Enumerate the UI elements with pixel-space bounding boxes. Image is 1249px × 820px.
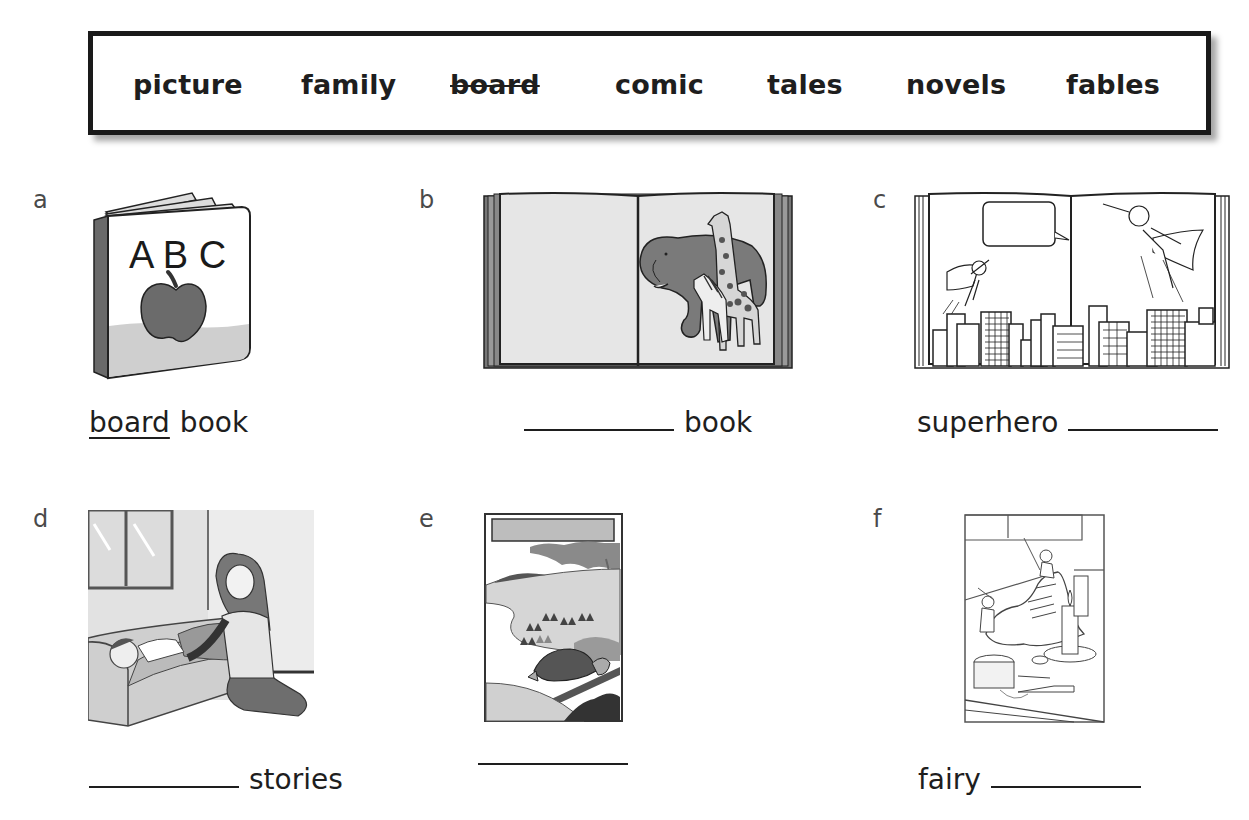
word-bank-word: picture: [133, 69, 243, 100]
item-f-caption: fairy: [918, 763, 1141, 796]
caption-suffix: stories: [249, 763, 343, 796]
caption-prefix: superhero: [917, 406, 1058, 439]
item-e-caption: [478, 763, 628, 773]
item-letter: a: [33, 186, 48, 214]
elves-and-shoemaker-illustration: [964, 514, 1106, 724]
item-letter: b: [419, 186, 434, 214]
caption-prefix: fairy: [918, 763, 981, 796]
item-letter: d: [33, 505, 48, 533]
picture-book-illustration: [482, 190, 794, 372]
item-b-caption: book: [524, 406, 752, 439]
word-bank: picture family board comic tales novels …: [88, 31, 1211, 135]
answer-blank[interactable]: [524, 429, 674, 431]
word-bank-word: fables: [1066, 69, 1160, 100]
tortoise-fable-illustration: [484, 513, 624, 723]
item-c-caption: superhero: [917, 406, 1218, 439]
item-d-caption: stories: [89, 763, 343, 796]
svg-text:A B C: A B C: [129, 234, 226, 276]
answer-blank[interactable]: [1068, 429, 1218, 431]
word-bank-word: comic: [615, 69, 704, 100]
board-book-illustration: A B C: [92, 190, 254, 380]
answer-blank[interactable]: [89, 786, 239, 788]
caption-suffix: book: [180, 406, 248, 439]
answer-blank[interactable]: [478, 763, 628, 765]
item-letter: c: [873, 186, 886, 214]
answer-blank[interactable]: [991, 786, 1141, 788]
word-bank-word: novels: [906, 69, 1006, 100]
item-letter: e: [419, 505, 434, 533]
word-bank-word: tales: [767, 69, 843, 100]
comic-book-illustration: [913, 190, 1231, 372]
word-bank-word: family: [301, 69, 396, 100]
word-bank-word-crossed-out: board: [450, 69, 540, 100]
caption-suffix: book: [684, 406, 752, 439]
bedtime-story-illustration: [88, 510, 316, 732]
item-letter: f: [873, 505, 881, 533]
answer-text: board: [89, 406, 170, 439]
item-a-caption: board book: [89, 406, 248, 439]
